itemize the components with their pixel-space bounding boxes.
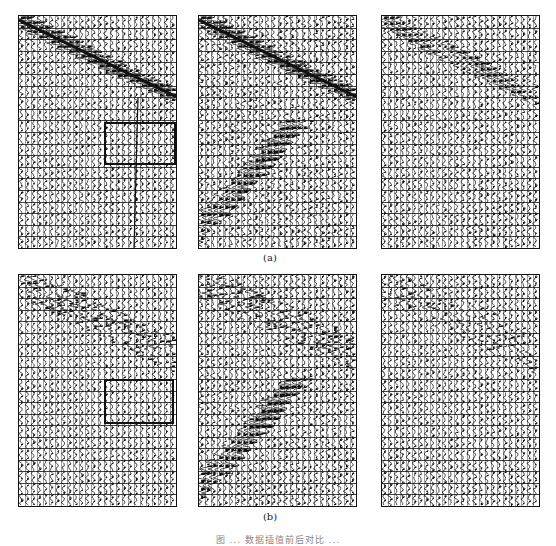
sublabel-a: (a) — [250, 252, 290, 263]
seismic-panel-b1 — [18, 274, 177, 507]
trace-canvas — [19, 275, 176, 506]
trace-canvas — [382, 275, 539, 506]
trace-canvas — [199, 16, 356, 248]
seismic-panel-b3 — [381, 274, 540, 507]
seismic-panel-a2 — [198, 15, 357, 249]
trace-canvas — [382, 16, 539, 248]
seismic-panel-a1 — [18, 15, 177, 249]
trace-canvas — [199, 275, 356, 506]
seismic-panel-b2 — [198, 274, 357, 507]
seismic-panel-a3 — [381, 15, 540, 249]
figure-caption: 图 ... 数据插值前后对比 ... — [0, 533, 556, 546]
trace-canvas — [19, 16, 176, 248]
sublabel-b: (b) — [250, 511, 290, 522]
